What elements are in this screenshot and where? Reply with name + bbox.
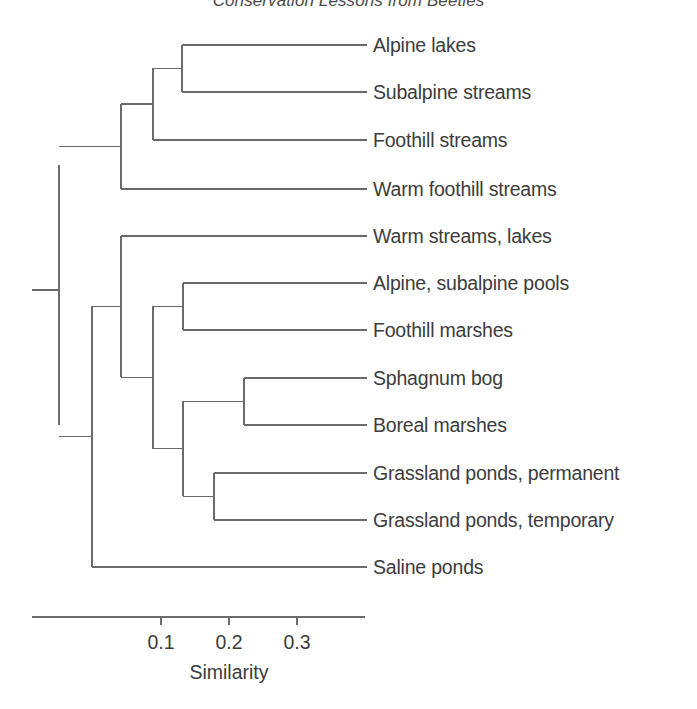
axis-tick-label: 0.2 [199,633,259,653]
similarity-axis [32,617,365,625]
leaf-label: Grassland ponds, temporary [373,511,614,531]
leaf-label: Subalpine streams [373,83,531,103]
leaf-label: Warm foothill streams [373,180,557,200]
leaf-label: Grassland ponds, permanent [373,464,619,484]
leaf-label: Foothill streams [373,131,507,151]
axis-tick-label: 0.1 [131,633,191,653]
leaf-label: Alpine lakes [373,36,476,56]
leaf-label: Foothill marshes [373,321,513,341]
leaf-label: Warm streams, lakes [373,227,552,247]
tree-branches [32,45,367,567]
leaf-label: Sphagnum bog [373,369,503,389]
leaf-label: Alpine, subalpine pools [373,274,569,294]
leaf-label: Boreal marshes [373,416,507,436]
axis-tick-label: 0.3 [267,633,327,653]
leaf-label: Saline ponds [373,558,483,578]
axis-title: Similarity [149,663,309,683]
dendrogram-tree [0,0,697,709]
